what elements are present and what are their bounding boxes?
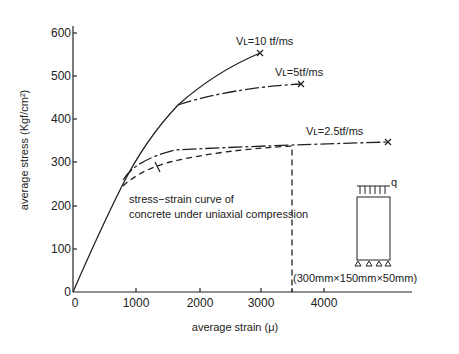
svg-text:0: 0 <box>64 285 71 299</box>
svg-text:500: 500 <box>51 69 71 83</box>
specimen-diagram <box>355 186 391 266</box>
svg-text:600: 600 <box>51 26 71 40</box>
svg-text:concrete under uniaxial compre: concrete under uniaxial compression <box>129 208 308 220</box>
y-axis-label: average stress (Kgf/cm²) <box>18 90 30 210</box>
annotations: Vʟ=10 tf/ms Vʟ=5tf/ms Vʟ=2.5tf/ms stress… <box>129 35 417 284</box>
curve-v10 <box>73 53 260 292</box>
axes <box>73 26 412 292</box>
svg-text:0: 0 <box>72 296 79 310</box>
svg-text:Vʟ=5tf/ms: Vʟ=5tf/ms <box>275 66 324 78</box>
svg-text:2000: 2000 <box>187 296 214 310</box>
svg-text:Vʟ=2.5tf/ms: Vʟ=2.5tf/ms <box>306 125 364 137</box>
y-tick-labels: 600500 400300 200100 0 <box>51 26 71 299</box>
svg-text:300: 300 <box>51 155 71 169</box>
svg-text:Vʟ=10 tf/ms: Vʟ=10 tf/ms <box>236 35 294 47</box>
svg-text:3000: 3000 <box>248 296 275 310</box>
chart-svg: 600500 400300 200100 0 01000 20003000 40… <box>0 0 459 354</box>
x-axis-label: average strain (μ) <box>192 321 278 333</box>
curve-v5 <box>178 84 301 105</box>
curve-v25 <box>123 142 388 180</box>
chart: 600500 400300 200100 0 01000 20003000 40… <box>0 0 459 354</box>
svg-text:stress−strain curve of: stress−strain curve of <box>129 193 235 205</box>
svg-text:1000: 1000 <box>123 296 150 310</box>
curves <box>73 50 391 292</box>
svg-text:200: 200 <box>51 199 71 213</box>
svg-text:100: 100 <box>51 242 71 256</box>
svg-text:(300mm×150mm×50mm): (300mm×150mm×50mm) <box>293 272 417 284</box>
x-tick-labels: 01000 20003000 4000 <box>72 296 338 310</box>
svg-text:q: q <box>391 176 397 188</box>
svg-text:400: 400 <box>51 112 71 126</box>
svg-text:4000: 4000 <box>311 296 338 310</box>
